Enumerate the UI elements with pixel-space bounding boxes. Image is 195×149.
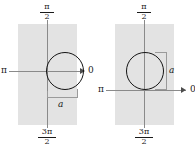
dimension-tick-right (77, 89, 78, 98)
axis-label-pi: π (98, 85, 104, 94)
circle-curve (126, 52, 164, 90)
dimension-label-a: a (169, 66, 174, 75)
axis-label-3pi-over-2-numerator: 3π (135, 128, 153, 136)
dimension-span (166, 52, 167, 90)
axis-label-pi: π (1, 66, 7, 75)
circle-curve (46, 52, 84, 90)
horizontal-axis (106, 90, 186, 91)
axis-label-3pi-over-2-numerator: 3π (38, 128, 56, 136)
polar-circle-sine-panel: a π 2 3π 2 π 0 (97, 0, 194, 149)
axis-label-3pi-over-2-denominator: 2 (38, 138, 56, 146)
polar-circle-cosine-panel: a π 2 3π 2 π 0 (0, 0, 97, 149)
axis-label-pi-over-2: π 2 (40, 3, 54, 21)
horizontal-axis-arrow-icon (181, 87, 186, 93)
axis-label-pi-over-2: π 2 (137, 3, 151, 21)
axis-label-pi-over-2-numerator: π (137, 3, 151, 11)
axis-label-zero: 0 (190, 85, 195, 94)
axis-label-zero: 0 (88, 66, 94, 75)
axis-label-pi-over-2-denominator: 2 (137, 13, 151, 21)
axis-label-3pi-over-2-denominator: 2 (135, 138, 153, 146)
axis-label-3pi-over-2: 3π 2 (135, 128, 153, 146)
dimension-span (47, 97, 78, 98)
figure-root: a π 2 3π 2 π 0 a (0, 0, 195, 149)
dimension-tick-bottom (155, 89, 167, 90)
axis-label-pi-over-2-numerator: π (40, 3, 54, 11)
axis-label-pi-over-2-denominator: 2 (40, 13, 54, 21)
axis-label-3pi-over-2: 3π 2 (38, 128, 56, 146)
dimension-label-a: a (58, 100, 63, 109)
